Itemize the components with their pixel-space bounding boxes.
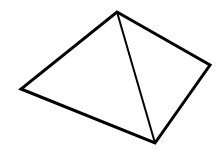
- quadrilateral-outline: [21, 12, 210, 143]
- pyramid-diagram: [0, 0, 221, 157]
